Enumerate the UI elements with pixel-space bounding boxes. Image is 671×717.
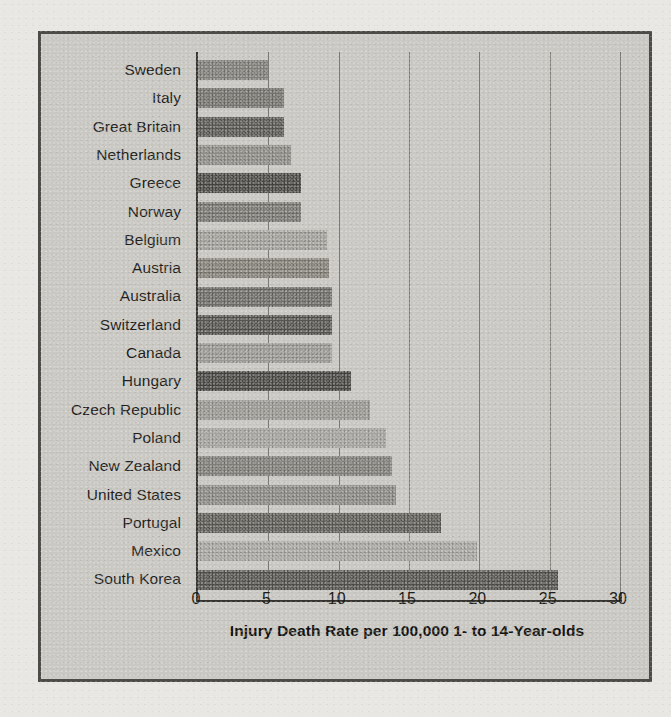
- bar: [198, 117, 284, 137]
- category-label: Norway: [128, 198, 181, 226]
- plot-area: [196, 52, 620, 602]
- bar-texture: [198, 230, 327, 250]
- x-tick-label: 20: [468, 590, 486, 608]
- category-label: New Zealand: [89, 452, 181, 480]
- category-label: United States: [87, 481, 181, 509]
- category-label: Netherlands: [96, 141, 181, 169]
- category-axis-labels: SwedenItalyGreat BritainNetherlandsGreec…: [41, 56, 189, 596]
- category-label: Australia: [120, 282, 181, 310]
- bar: [198, 173, 301, 193]
- bar: [198, 513, 441, 533]
- bar: [198, 145, 291, 165]
- bar-texture: [198, 287, 332, 307]
- bar: [198, 230, 327, 250]
- bar: [198, 258, 329, 278]
- bar-texture: [198, 60, 268, 80]
- bar: [198, 343, 332, 363]
- category-label: Belgium: [124, 226, 181, 254]
- bar-chart: SwedenItalyGreat BritainNetherlandsGreec…: [41, 34, 649, 679]
- category-label: Great Britain: [93, 113, 181, 141]
- gridline-30: [620, 52, 621, 600]
- category-label: Switzerland: [100, 311, 181, 339]
- bar-texture: [198, 485, 396, 505]
- category-label: Italy: [152, 84, 181, 112]
- gridline-20: [479, 52, 480, 600]
- category-label: Hungary: [122, 367, 181, 395]
- bar-texture: [198, 145, 291, 165]
- category-label: Poland: [132, 424, 181, 452]
- bar-texture: [198, 513, 441, 533]
- bar: [198, 485, 396, 505]
- x-tick-label: 5: [262, 590, 271, 608]
- category-label: Czech Republic: [71, 396, 181, 424]
- x-tick-label: 0: [192, 590, 201, 608]
- bar-texture: [198, 343, 332, 363]
- bar: [198, 88, 284, 108]
- category-label: Greece: [130, 169, 181, 197]
- category-label: South Korea: [94, 565, 181, 593]
- bar: [198, 202, 301, 222]
- bar-texture: [198, 570, 558, 590]
- category-label: Portugal: [122, 509, 181, 537]
- gridline-25: [550, 52, 551, 600]
- bar: [198, 456, 392, 476]
- bar-texture: [198, 202, 301, 222]
- x-axis-title: Injury Death Rate per 100,000 1- to 14-Y…: [196, 622, 618, 640]
- bar: [198, 541, 477, 561]
- bar-texture: [198, 456, 392, 476]
- bar-texture: [198, 315, 332, 335]
- bar-texture: [198, 258, 329, 278]
- category-label: Austria: [132, 254, 181, 282]
- bar-texture: [198, 117, 284, 137]
- bar-texture: [198, 88, 284, 108]
- bar-texture: [198, 173, 301, 193]
- bar: [198, 371, 351, 391]
- bar: [198, 287, 332, 307]
- bar-texture: [198, 541, 477, 561]
- bar-texture: [198, 371, 351, 391]
- bar: [198, 428, 386, 448]
- category-label: Canada: [126, 339, 181, 367]
- bar: [198, 315, 332, 335]
- bar: [198, 400, 370, 420]
- bar-texture: [198, 400, 370, 420]
- x-tick-label: 25: [539, 590, 557, 608]
- bar-texture: [198, 428, 386, 448]
- category-label: Sweden: [124, 56, 181, 84]
- x-tick-label: 10: [328, 590, 346, 608]
- bar: [198, 60, 268, 80]
- x-tick-label: 15: [398, 590, 416, 608]
- bar: [198, 570, 558, 590]
- x-tick-label: 30: [609, 590, 627, 608]
- category-label: Mexico: [131, 537, 181, 565]
- chart-panel: SwedenItalyGreat BritainNetherlandsGreec…: [38, 31, 652, 682]
